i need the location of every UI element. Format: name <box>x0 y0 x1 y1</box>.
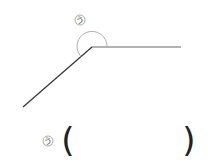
angle-label-marker: う <box>75 15 85 25</box>
slanted-ray <box>23 47 92 107</box>
close-paren: ) <box>182 120 195 160</box>
open-paren: ( <box>61 120 74 160</box>
angle-diagram: う う ( ) <box>0 0 208 167</box>
answer-area: う ( ) <box>43 120 196 160</box>
angle-arc <box>77 31 107 56</box>
angle-label: う <box>76 16 84 25</box>
answer-label: う <box>44 137 52 146</box>
